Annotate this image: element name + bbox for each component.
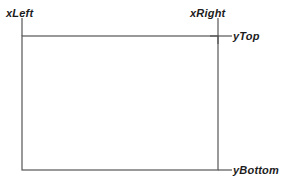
diagram-canvas: xLeft xRight yTop yBottom (0, 0, 291, 184)
bounding-rectangle (22, 36, 218, 170)
bounding-box-diagram (0, 0, 291, 184)
label-x-left: xLeft (6, 7, 33, 19)
label-y-bottom: yBottom (233, 164, 279, 176)
label-y-top: yTop (233, 30, 260, 42)
label-x-right: xRight (190, 7, 225, 19)
